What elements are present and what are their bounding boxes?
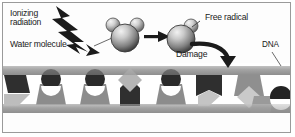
right-arrow-icon xyxy=(144,31,170,42)
damage-label: Damage xyxy=(176,50,207,59)
dna-strand-icon xyxy=(3,48,292,128)
water-leader-line xyxy=(94,38,112,46)
dna-label: DNA xyxy=(262,41,279,49)
radiation-dna-damage-figure: Ionizingradiation Water molecule Free ra… xyxy=(0,0,295,137)
figure-canvas xyxy=(0,0,295,137)
free-radical-icon xyxy=(167,19,198,53)
water-molecule-label: Water molecule xyxy=(10,40,67,49)
ionizing-radiation-label-line2: radiation xyxy=(10,17,41,27)
free-radical-label: Free radical xyxy=(205,13,248,22)
water-molecule-icon xyxy=(106,18,144,52)
ionizing-radiation-label: Ionizingradiation xyxy=(10,9,41,27)
